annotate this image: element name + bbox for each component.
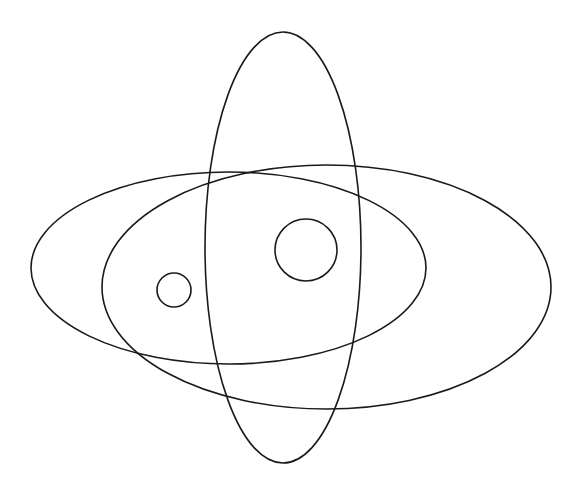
circle-small — [157, 273, 191, 307]
ellipse-right-horizontal — [102, 165, 551, 409]
ellipse-left-horizontal — [31, 172, 426, 364]
venn-diagram-canvas — [0, 0, 587, 496]
circle-large — [275, 219, 337, 281]
